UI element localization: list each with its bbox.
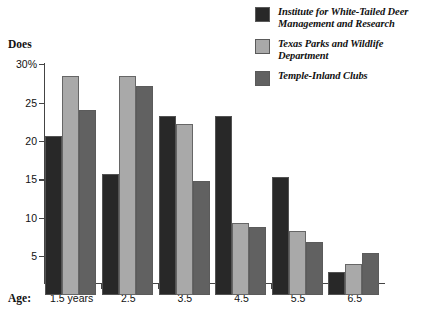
- y-tick-25: [39, 103, 44, 104]
- deer-harvest-bar-chart: Institute for White-Tailed Deer Manageme…: [0, 0, 426, 319]
- y-tick-label-30: 30%: [3, 58, 37, 70]
- bar: [136, 86, 153, 295]
- y-tick-30: [39, 64, 44, 65]
- bar: [328, 272, 345, 295]
- y-tick-label-10: 10: [3, 212, 37, 224]
- bar: [79, 110, 96, 295]
- bar: [176, 124, 193, 295]
- bar: [306, 242, 323, 295]
- bar: [62, 76, 79, 294]
- bar: [272, 177, 289, 295]
- y-tick-15: [39, 179, 44, 180]
- bar: [119, 76, 136, 294]
- y-tick-5: [39, 256, 44, 257]
- bar: [45, 136, 62, 294]
- bar: [232, 223, 249, 294]
- y-tick-label-15: 15: [3, 173, 37, 185]
- bar: [249, 227, 266, 295]
- y-tick-label-20: 20: [3, 135, 37, 147]
- y-tick-label-25: 25: [3, 97, 37, 109]
- y-tick-20: [39, 141, 44, 142]
- bar: [289, 231, 306, 295]
- y-tick-label-5: 5: [3, 250, 37, 262]
- bar: [102, 174, 119, 295]
- bar: [193, 181, 210, 295]
- bar: [345, 264, 362, 295]
- bar: [362, 253, 379, 294]
- bar: [215, 116, 232, 295]
- bar: [159, 116, 176, 294]
- plot-area: 30%252015105 1.5 years2.53.54.55.56.5: [0, 0, 426, 319]
- y-tick-10: [39, 218, 44, 219]
